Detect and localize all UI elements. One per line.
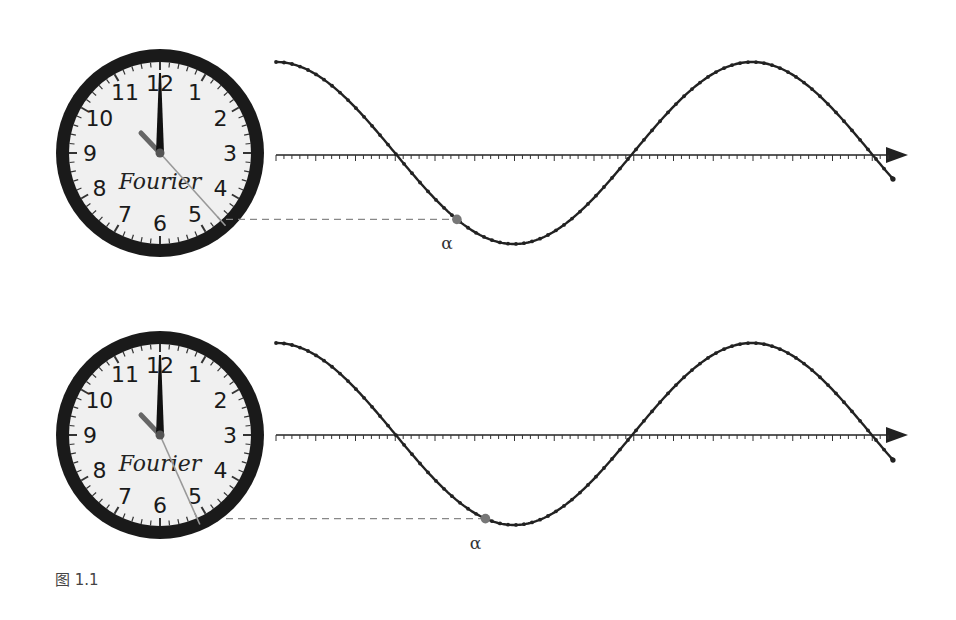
curve-sample-point bbox=[426, 470, 430, 474]
curve-sample-point bbox=[754, 60, 758, 64]
curve-sample-point bbox=[674, 383, 678, 387]
clock-tick bbox=[246, 162, 251, 163]
curve-sample-point bbox=[570, 498, 574, 502]
clock-center-cap bbox=[156, 149, 165, 158]
curve-sample-point bbox=[514, 242, 518, 246]
curve-sample-point bbox=[802, 81, 806, 85]
curve-sample-point bbox=[522, 241, 526, 245]
alpha-marker-point bbox=[452, 215, 462, 225]
curve-sample-point bbox=[642, 138, 646, 142]
clock-tick bbox=[150, 344, 151, 349]
curve-sample-point bbox=[714, 70, 718, 74]
clock-tick bbox=[150, 521, 151, 526]
clock-brand: Fourier bbox=[118, 169, 203, 194]
curve-sample-point bbox=[378, 133, 382, 137]
curve-sample-point bbox=[490, 519, 494, 523]
curve-sample-point bbox=[362, 115, 366, 119]
curve-sample-point bbox=[386, 424, 390, 428]
curve-sample-point bbox=[786, 70, 790, 74]
curve-sample-point bbox=[762, 342, 766, 346]
clock-numeral: 7 bbox=[118, 202, 132, 227]
clock-numeral: 2 bbox=[214, 388, 228, 413]
curve-sample-point bbox=[274, 341, 278, 345]
curve-sample-point bbox=[778, 347, 782, 351]
curve-sample-point bbox=[610, 457, 614, 461]
curve-sample-point bbox=[434, 198, 438, 202]
alpha-marker-point bbox=[481, 514, 491, 524]
curve-sample-point bbox=[730, 63, 734, 67]
curve-sample-point bbox=[666, 111, 670, 115]
curve-sample-point bbox=[410, 171, 414, 175]
curve-sample-point bbox=[738, 342, 742, 346]
curve-sample-point bbox=[322, 359, 326, 363]
curve-sample-point bbox=[538, 237, 542, 241]
curve-sample-point bbox=[746, 341, 750, 345]
clock-numeral: 9 bbox=[83, 423, 97, 448]
clock-numeral: 4 bbox=[214, 176, 228, 201]
curve-sample-point bbox=[842, 400, 846, 404]
curve-sample-point bbox=[514, 523, 518, 527]
curve-sample-point bbox=[426, 189, 430, 193]
curve-sample-point bbox=[834, 392, 838, 396]
curve-sample-point bbox=[482, 235, 486, 239]
clock-numeral: 11 bbox=[111, 80, 139, 105]
curve-sample-point bbox=[474, 231, 478, 235]
curve-sample-point bbox=[650, 410, 654, 414]
curve-sample-point bbox=[682, 375, 686, 379]
curve-sample-point bbox=[818, 94, 822, 98]
clock-numeral: 8 bbox=[92, 458, 106, 483]
curve-sample-point bbox=[370, 124, 374, 128]
curve-sample-point bbox=[794, 75, 798, 79]
curve-sample-point bbox=[274, 60, 278, 64]
cosine-curve bbox=[276, 343, 892, 525]
curve-sample-point bbox=[858, 138, 862, 142]
curve-sample-point bbox=[634, 428, 638, 432]
clock-tick bbox=[69, 444, 74, 445]
clock-tick bbox=[69, 162, 74, 163]
clock-tick bbox=[169, 344, 170, 349]
clock-numeral: 5 bbox=[188, 484, 202, 509]
clock-tick bbox=[69, 143, 74, 144]
clock-tick bbox=[246, 444, 251, 445]
curve-sample-point bbox=[762, 61, 766, 65]
curve-sample-point bbox=[602, 185, 606, 189]
alpha-label: α bbox=[441, 233, 453, 253]
curve-sample-point bbox=[330, 365, 334, 369]
curve-sample-point bbox=[634, 147, 638, 151]
curve-sample-point bbox=[362, 396, 366, 400]
curve-sample-point bbox=[610, 176, 614, 180]
curve-sample-point bbox=[618, 448, 622, 452]
clock-numeral: 1 bbox=[188, 80, 202, 105]
curve-sample-point bbox=[282, 342, 286, 346]
curve-sample-point bbox=[290, 343, 294, 347]
curve-sample-point bbox=[802, 362, 806, 366]
curve-sample-point bbox=[522, 522, 526, 526]
clock-tick bbox=[169, 239, 170, 244]
curve-sample-point bbox=[298, 346, 302, 350]
figure-canvas: 121234567891011Fourierα 121234567891011F… bbox=[0, 0, 956, 620]
curve-sample-point bbox=[530, 240, 534, 244]
curve-sample-point bbox=[442, 206, 446, 210]
curve-sample-point bbox=[882, 167, 886, 171]
curve-sample-point bbox=[402, 162, 406, 166]
panel-bottom: 121234567891011Fourierα bbox=[56, 331, 905, 553]
clock-numeral: 2 bbox=[214, 106, 228, 131]
curve-sample-point bbox=[674, 102, 678, 106]
curve-sample-point bbox=[506, 523, 510, 527]
curve-sample-point bbox=[826, 102, 830, 106]
curve-sample-point bbox=[442, 487, 446, 491]
curve-sample-point bbox=[770, 344, 774, 348]
curve-sample-point bbox=[490, 238, 494, 242]
clock-tick bbox=[69, 425, 74, 426]
curve-sample-point bbox=[850, 129, 854, 133]
curve-sample-point bbox=[474, 512, 478, 516]
curve-sample-point bbox=[434, 479, 438, 483]
cosine-curve bbox=[276, 62, 892, 244]
curve-sample-point bbox=[458, 501, 462, 505]
curve-sample-point bbox=[298, 65, 302, 69]
curve-sample-point bbox=[722, 347, 726, 351]
curve-sample-point bbox=[338, 91, 342, 95]
panel-top: 121234567891011Fourierα bbox=[56, 49, 905, 257]
curve-sample-point bbox=[314, 353, 318, 357]
curve-sample-point bbox=[322, 78, 326, 82]
